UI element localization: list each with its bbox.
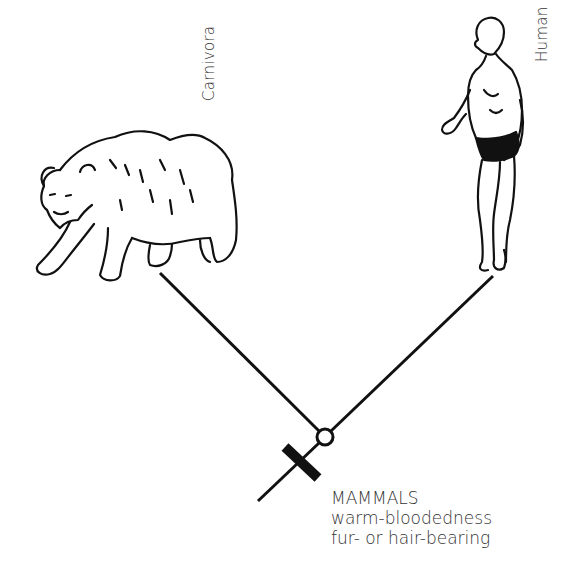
synapomorphy-crossbar bbox=[285, 447, 318, 478]
carnivora-branch bbox=[160, 273, 319, 431]
cladogram-lines bbox=[0, 0, 577, 570]
tree-branches bbox=[160, 273, 493, 501]
human-label: Human bbox=[533, 6, 551, 62]
carnivora-label: Carnivora bbox=[200, 26, 218, 101]
bear-illustration bbox=[37, 131, 237, 280]
clade-trait: fur- or hair-bearing bbox=[331, 528, 492, 548]
cladogram: Carnivora Human MAMMALS warm-bloodedness… bbox=[0, 0, 577, 570]
clade-name: MAMMALS bbox=[331, 488, 492, 508]
node-circle bbox=[317, 429, 333, 445]
human-branch bbox=[331, 276, 493, 431]
clade-description: MAMMALS warm-bloodedness fur- or hair-be… bbox=[331, 488, 492, 548]
human-illustration bbox=[442, 18, 523, 271]
clade-trait: warm-bloodedness bbox=[331, 508, 492, 528]
